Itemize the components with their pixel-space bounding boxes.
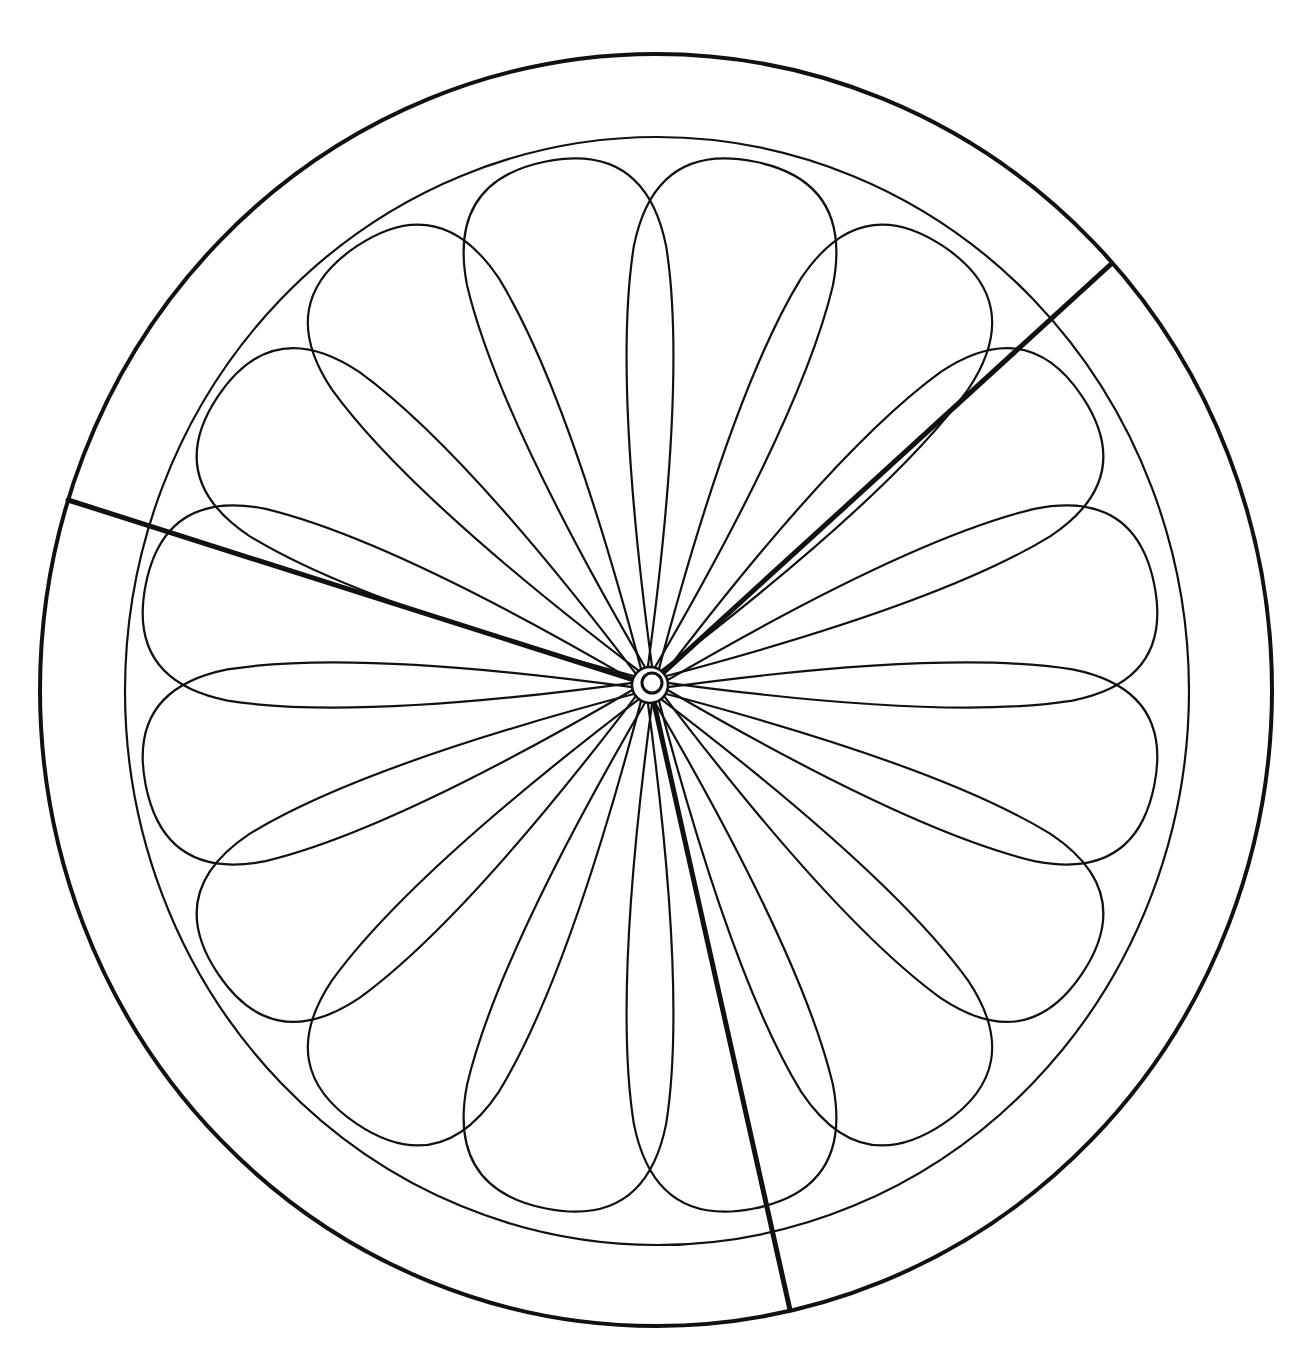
citrus-segment [662, 348, 1104, 677]
citrus-segment [197, 693, 639, 1022]
citrus-segment [308, 697, 642, 1146]
citrus-slice-diagram [0, 0, 1311, 1367]
wedge-cut-line [68, 500, 650, 685]
citrus-segment [197, 348, 639, 677]
citrus-segment [662, 693, 1104, 1022]
wedge-cut-line [650, 265, 1110, 685]
wedge-cut-lines [68, 265, 1110, 1310]
citrus-segment [658, 225, 992, 674]
wedge-cut-line [650, 685, 790, 1310]
citrus-segment [308, 225, 642, 674]
citrus-segment [658, 697, 992, 1146]
